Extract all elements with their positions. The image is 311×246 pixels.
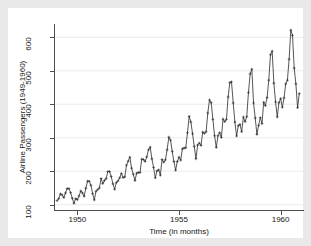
line-airpassengers xyxy=(57,30,299,203)
y-tick-mark xyxy=(50,37,54,38)
plot-area xyxy=(55,24,303,210)
y-tick-mark xyxy=(50,138,54,139)
y-tick-mark xyxy=(50,171,54,172)
gridlines xyxy=(55,37,303,204)
y-tick-label: 300 xyxy=(8,133,49,143)
chart-figure: 100200300400500600 195019551960 Airline … xyxy=(0,0,311,246)
y-axis-title-container: Airline Passengers (1949-1960) xyxy=(16,24,28,210)
chart-canvas: 100200300400500600 195019551960 Airline … xyxy=(8,8,303,238)
y-tick-label: 400 xyxy=(8,99,49,109)
y-tick-label: 600 xyxy=(8,32,49,42)
y-tick-mark xyxy=(50,71,54,72)
x-tick-label: 1950 xyxy=(57,215,97,224)
data-point-markers xyxy=(56,29,301,205)
y-axis-spine xyxy=(54,24,55,211)
series-plot xyxy=(55,24,303,210)
x-axis-title: Time (in months) xyxy=(55,227,303,236)
y-axis-title: Airline Passengers (1949-1960) xyxy=(18,61,27,174)
y-tick-mark xyxy=(50,205,54,206)
y-tick-label: 100 xyxy=(8,200,49,210)
x-tick-label: 1955 xyxy=(159,215,199,224)
y-tick-mark xyxy=(50,104,54,105)
y-tick-label: 200 xyxy=(8,166,49,176)
y-tick-label: 500 xyxy=(8,66,49,76)
x-tick-label: 1960 xyxy=(261,215,301,224)
